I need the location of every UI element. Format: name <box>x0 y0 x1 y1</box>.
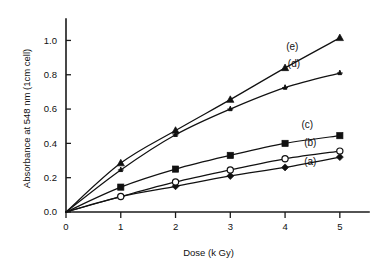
triangle-marker <box>227 96 234 103</box>
diamond-marker <box>282 164 289 171</box>
x-axis-title: Dose (k Gy) <box>183 247 234 258</box>
star-marker <box>337 70 343 74</box>
y-tick-label: 0.4 <box>44 138 57 149</box>
y-tick-label: 0.2 <box>44 172 57 183</box>
series-line <box>66 73 340 212</box>
square-marker <box>227 152 233 158</box>
square-marker <box>337 133 343 139</box>
data-series <box>66 154 343 212</box>
x-tick-label: 4 <box>282 221 287 232</box>
open-circle-marker <box>118 193 124 199</box>
square-marker <box>118 184 124 190</box>
series-label: (e) <box>286 41 298 52</box>
y-axis-ticks: 0.00.20.40.60.81.0 <box>44 35 71 218</box>
x-tick-label: 5 <box>337 221 342 232</box>
x-tick-label: 1 <box>118 221 123 232</box>
chart-figure: 0.00.20.40.60.81.0 012345 (a)(b)(c)(d)(e… <box>0 0 372 264</box>
square-marker <box>172 166 178 172</box>
y-tick-label: 0.8 <box>44 69 57 80</box>
x-tick-label: 2 <box>173 221 178 232</box>
absorbance-vs-dose-line-chart: 0.00.20.40.60.81.0 012345 (a)(b)(c)(d)(e… <box>0 0 372 264</box>
x-tick-label: 0 <box>63 221 68 232</box>
plot-axes <box>66 19 369 212</box>
triangle-marker <box>336 34 343 41</box>
open-circle-marker <box>282 156 288 162</box>
y-tick-label: 1.0 <box>44 35 57 46</box>
series-line <box>66 157 340 212</box>
y-axis-title: Absorbance at 548 nm (1cm cell) <box>21 49 32 188</box>
series-label: (c) <box>301 119 313 130</box>
square-marker <box>282 140 288 146</box>
series-label: (b) <box>304 137 316 148</box>
triangle-marker <box>117 159 124 166</box>
y-tick-label: 0.6 <box>44 103 57 114</box>
open-circle-marker <box>172 179 178 185</box>
series-label: (d) <box>288 58 300 69</box>
series-label: (a) <box>304 156 316 167</box>
triangle-marker <box>172 127 179 134</box>
y-tick-label: 0.0 <box>44 206 57 217</box>
x-tick-label: 3 <box>228 221 233 232</box>
open-circle-marker <box>227 167 233 173</box>
x-axis-ticks: 012345 <box>63 212 342 232</box>
open-circle-marker <box>337 148 343 154</box>
series-labels-layer: (a)(b)(c)(d)(e) <box>286 41 316 167</box>
star-marker <box>118 167 124 171</box>
